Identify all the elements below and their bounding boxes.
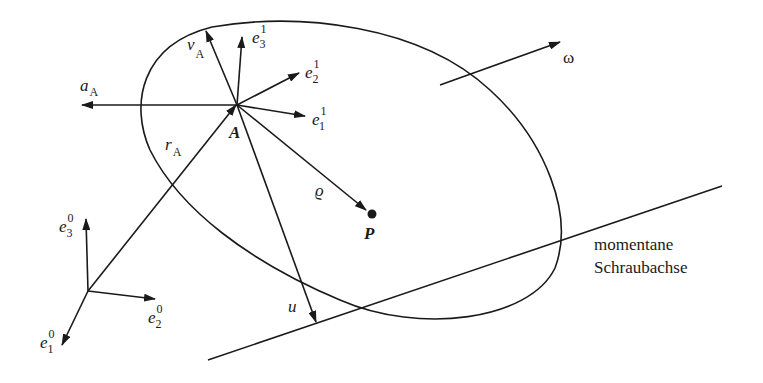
point-P [368, 210, 377, 219]
v-A-vector [206, 31, 237, 105]
label-e1-0: e01 [40, 327, 55, 356]
e2-1-vector [237, 73, 299, 105]
screw-axis-diagram: aA vA e13 e12 e11 A rA ϱ P u ω e03 e02 e… [0, 0, 763, 383]
label-e3-0: e03 [59, 211, 74, 240]
label-e3-1: e13 [252, 22, 267, 51]
label-e1-1: e11 [312, 104, 327, 133]
label-u: u [288, 297, 297, 316]
rigid-body-outline [141, 21, 561, 319]
label-P: P [363, 224, 375, 243]
label-r-A: rA [165, 135, 182, 159]
screw-axis-caption-line2: Schraubachse [594, 258, 687, 277]
omega-vector [440, 42, 560, 85]
label-a-A: aA [80, 76, 99, 99]
screw-axis-caption-line1: momentane [594, 235, 673, 254]
label-e2-1: e12 [305, 57, 320, 86]
e1-1-vector [237, 105, 305, 116]
label-A: A [228, 123, 240, 142]
e3-0-vector [86, 219, 88, 291]
label-omega: ω [563, 48, 574, 67]
label-rho: ϱ [315, 181, 324, 200]
e2-0-vector [88, 291, 155, 299]
r-A-vector [88, 105, 236, 291]
label-e2-0: e02 [148, 302, 163, 331]
e1-0-vector [62, 291, 88, 345]
label-v-A: vA [187, 35, 205, 61]
e3-1-vector [237, 37, 242, 105]
